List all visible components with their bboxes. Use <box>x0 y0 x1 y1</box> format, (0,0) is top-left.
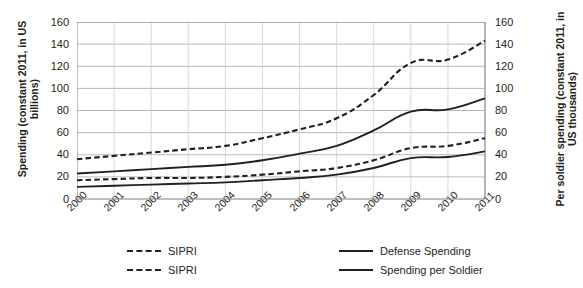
y-tick-left-40: 40 <box>43 148 69 161</box>
y-tick-right-20: 20 <box>495 170 521 183</box>
y-tick-left-80: 80 <box>43 104 69 117</box>
chart-figure: Spending (constant 2011, in US billions)… <box>0 0 583 288</box>
y-tick-right-0: 0 <box>495 193 521 206</box>
legend-swatch-solid-icon <box>339 269 373 271</box>
series-line-1 <box>77 98 485 173</box>
y-tick-right-40: 40 <box>495 148 521 161</box>
y-tick-right-60: 60 <box>495 126 521 139</box>
y-tick-left-100: 100 <box>43 82 69 95</box>
legend-label: SIPRI <box>168 264 197 276</box>
y-tick-right-120: 120 <box>495 60 521 73</box>
y-axis-right-title: Per soldier spending (constant 2011, in … <box>554 9 582 209</box>
y-tick-right-140: 140 <box>495 38 521 51</box>
plot-area <box>77 22 485 199</box>
legend-label: Spending per Soldier <box>380 264 483 276</box>
legend-swatch-solid-icon <box>339 250 373 252</box>
chart-legend: SIPRISIPRIDefense SpendingSpending per S… <box>77 243 507 283</box>
legend-item-2[interactable]: Defense Spending <box>339 243 471 259</box>
legend-swatch-dashed-icon <box>127 250 161 252</box>
legend-item-3[interactable]: Spending per Soldier <box>339 262 483 278</box>
legend-item-0[interactable]: SIPRI <box>127 243 197 259</box>
series-line-0 <box>77 41 485 159</box>
legend-item-1[interactable]: SIPRI <box>127 262 197 278</box>
y-tick-right-160: 160 <box>495 16 521 29</box>
y-tick-right-80: 80 <box>495 104 521 117</box>
y-tick-left-160: 160 <box>43 16 69 29</box>
y-tick-right-100: 100 <box>495 82 521 95</box>
series-line-2 <box>77 138 485 180</box>
y-tick-left-140: 140 <box>43 38 69 51</box>
y-axis-left-title: Spending (constant 2011, in US billions) <box>16 4 30 194</box>
legend-swatch-dashed-icon <box>127 269 161 271</box>
y-tick-left-20: 20 <box>43 170 69 183</box>
y-tick-left-120: 120 <box>43 60 69 73</box>
legend-label: Defense Spending <box>380 245 471 257</box>
y-tick-left-60: 60 <box>43 126 69 139</box>
legend-label: SIPRI <box>168 245 197 257</box>
